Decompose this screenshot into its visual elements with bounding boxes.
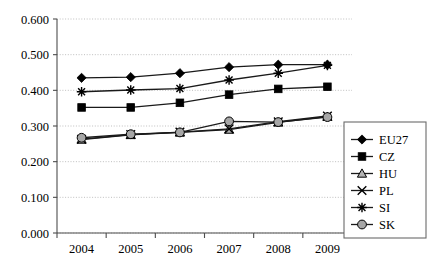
y-axis bbox=[53, 19, 57, 233]
data-point-marker bbox=[273, 68, 283, 78]
data-point-marker bbox=[358, 153, 366, 161]
data-point-marker bbox=[126, 73, 135, 82]
data-point-marker bbox=[224, 63, 233, 72]
legend-label: SI bbox=[379, 201, 390, 215]
y-axis-tick-label: 0.000 bbox=[21, 227, 49, 241]
series-sk bbox=[77, 113, 332, 142]
data-point-marker bbox=[323, 113, 332, 122]
x-axis bbox=[57, 233, 352, 238]
series-si bbox=[77, 61, 332, 97]
legend-label: EU27 bbox=[379, 133, 408, 147]
data-point-marker bbox=[324, 83, 332, 91]
gridlines bbox=[57, 19, 352, 233]
x-axis-tick-label: 2006 bbox=[167, 242, 192, 256]
data-point-marker bbox=[175, 69, 184, 78]
data-point-marker bbox=[127, 104, 135, 112]
data-point-marker bbox=[126, 85, 136, 95]
data-point-marker bbox=[77, 73, 86, 82]
line-chart: 0.0000.1000.2000.3000.4000.5000.600 2004… bbox=[0, 0, 428, 280]
data-point-marker bbox=[274, 60, 283, 69]
chart-svg: 0.0000.1000.2000.3000.4000.5000.600 2004… bbox=[0, 0, 428, 280]
data-point-marker bbox=[77, 133, 86, 142]
data-series-group bbox=[77, 60, 332, 143]
x-axis-tick-label: 2009 bbox=[315, 242, 340, 256]
legend-label: PL bbox=[379, 184, 394, 198]
y-axis-tick-label: 0.600 bbox=[21, 13, 49, 27]
y-axis-tick-label: 0.400 bbox=[21, 84, 49, 98]
data-point-marker bbox=[126, 130, 135, 139]
y-axis-tick-label: 0.100 bbox=[21, 191, 49, 205]
legend-label: HU bbox=[379, 167, 397, 181]
legend-label: SK bbox=[379, 218, 395, 232]
data-point-marker bbox=[176, 128, 185, 137]
series-cz bbox=[78, 83, 331, 111]
data-point-marker bbox=[225, 117, 234, 126]
y-axis-tick-label: 0.200 bbox=[21, 155, 49, 169]
y-axis-tick-label: 0.500 bbox=[21, 48, 49, 62]
data-point-marker bbox=[175, 84, 185, 94]
x-axis-tick-label: 2005 bbox=[118, 242, 143, 256]
chart-legend: EU27CZHUPLSISK bbox=[344, 122, 426, 238]
y-axis-tick-labels: 0.0000.1000.2000.3000.4000.5000.600 bbox=[21, 13, 49, 241]
data-point-marker bbox=[224, 75, 234, 85]
legend-label: CZ bbox=[379, 150, 395, 164]
series-hu bbox=[77, 112, 332, 143]
data-point-marker bbox=[78, 104, 86, 112]
series-line bbox=[82, 117, 328, 138]
series-pl bbox=[77, 112, 331, 144]
y-axis-tick-label: 0.300 bbox=[21, 120, 49, 134]
data-point-marker bbox=[225, 91, 233, 99]
data-point-marker bbox=[357, 203, 367, 213]
data-point-marker bbox=[274, 118, 283, 127]
data-point-marker bbox=[323, 61, 333, 71]
data-point-marker bbox=[358, 220, 367, 229]
x-axis-tick-label: 2007 bbox=[217, 242, 242, 256]
x-axis-tick-label: 2004 bbox=[69, 242, 95, 256]
data-point-marker bbox=[176, 99, 184, 107]
data-point-marker bbox=[77, 87, 87, 97]
x-axis-tick-labels: 200420052006200720082009 bbox=[69, 242, 340, 256]
x-axis-tick-label: 2008 bbox=[266, 242, 291, 256]
data-point-marker bbox=[274, 85, 282, 93]
